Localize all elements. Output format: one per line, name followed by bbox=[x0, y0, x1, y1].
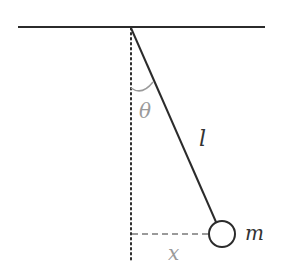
angle-label: θ bbox=[139, 99, 151, 123]
length-label: l bbox=[199, 126, 206, 151]
mass-label: m bbox=[245, 221, 264, 245]
pendulum-string bbox=[131, 28, 216, 222]
diagram-svg: θ l m x bbox=[0, 0, 285, 273]
displacement-label: x bbox=[168, 241, 179, 265]
pendulum-bob bbox=[209, 221, 235, 247]
pendulum-diagram: θ l m x bbox=[0, 0, 285, 273]
angle-arc bbox=[131, 82, 153, 91]
